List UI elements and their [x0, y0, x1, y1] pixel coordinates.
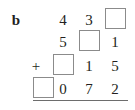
addend-2-digit-hundreds: 5	[52, 31, 74, 53]
addend-3-blank-hundreds[interactable]	[53, 54, 74, 75]
addend-3-digit-tens: 1	[78, 55, 100, 77]
addend-1-blank-ones[interactable]	[105, 8, 126, 29]
sum-digit-hundreds: 0	[52, 78, 74, 100]
addend-1-digit-tens: 3	[78, 9, 100, 31]
sum-blank-thousands[interactable]	[33, 77, 54, 98]
sum-digit-tens: 7	[78, 78, 100, 100]
addend-3-digit-ones: 5	[104, 55, 126, 77]
plus-operator: +	[28, 55, 44, 77]
addend-2-digit-ones: 1	[104, 31, 126, 53]
addend-1-digit-hundreds: 4	[52, 9, 74, 31]
problem-label: b	[8, 9, 24, 31]
addition-puzzle: b 4 3 5 1 + 1 5 0 7 2	[0, 0, 135, 110]
sum-digit-ones: 2	[104, 78, 126, 100]
answer-underline	[33, 100, 128, 101]
addend-2-blank-tens[interactable]	[79, 30, 100, 51]
